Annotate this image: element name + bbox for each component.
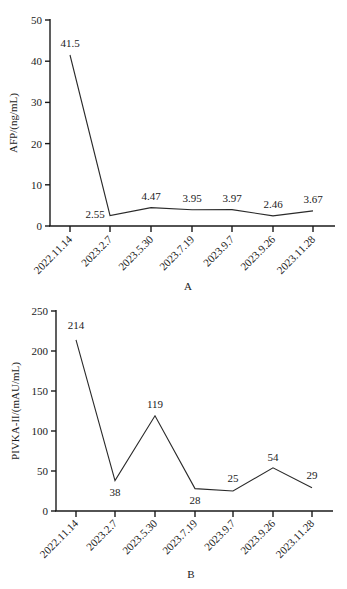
panel-label: B	[187, 568, 194, 580]
data-label: 3.95	[182, 192, 202, 204]
x-tick-label: 2023.9.7	[201, 233, 237, 269]
x-tick-label: 2022.11.14	[37, 517, 81, 561]
y-axis-title: AFP/(ng/mL)	[7, 93, 20, 153]
y-tick-label: 50	[37, 465, 49, 477]
chart-b-pivka: 0501001502002502022.11.142023.2.72023.5.…	[9, 305, 333, 580]
x-tick-label: 2023.2.7	[84, 517, 120, 553]
y-tick-label: 20	[31, 138, 43, 150]
x-tick-label: 2023.2.7	[79, 233, 115, 269]
data-label: 3.97	[222, 192, 242, 204]
data-label: 214	[68, 319, 85, 331]
x-tick-label: 2023.9.7	[202, 517, 238, 553]
y-tick-label: 30	[31, 96, 43, 108]
data-label: 29	[307, 469, 319, 481]
data-label: 54	[268, 451, 280, 463]
data-label: 4.47	[141, 190, 161, 202]
y-tick-label: 50	[31, 14, 43, 26]
y-tick-label: 250	[32, 305, 49, 317]
x-tick-label: 2022.11.14	[31, 233, 75, 277]
x-tick-label: 2023.9.26	[238, 517, 278, 557]
x-tick-label: 2023.11.28	[274, 233, 318, 277]
data-label: 2.55	[85, 208, 105, 220]
x-tick-label: 2023.7.19	[160, 517, 200, 557]
x-tick-label: 2023.5.30	[116, 233, 156, 273]
x-tick-label: 2023.11.28	[273, 517, 317, 561]
data-label: 2.46	[263, 198, 283, 210]
data-line	[76, 340, 312, 491]
data-label: 38	[110, 486, 122, 498]
y-tick-label: 40	[31, 55, 43, 67]
y-tick-label: 10	[31, 179, 43, 191]
panel-label: A	[184, 280, 192, 292]
y-tick-label: 200	[32, 345, 49, 357]
data-label: 25	[228, 472, 240, 484]
data-label: 119	[147, 398, 164, 410]
y-tick-label: 0	[37, 220, 43, 232]
figure: 010203040502022.11.142023.2.72023.5.3020…	[0, 0, 347, 589]
y-axis-title: PIVKA-II/(mAU/mL)	[9, 362, 22, 460]
y-tick-label: 0	[43, 505, 49, 517]
y-tick-label: 100	[32, 425, 49, 437]
x-tick-label: 2023.5.30	[120, 517, 160, 557]
data-label: 41.5	[60, 37, 80, 49]
y-tick-label: 150	[32, 385, 49, 397]
chart-a-afp: 010203040502022.11.142023.2.72023.5.3020…	[7, 14, 335, 292]
x-tick-label: 2023.7.19	[157, 233, 197, 273]
data-label: 28	[190, 494, 202, 506]
x-tick-label: 2023.9.26	[238, 233, 278, 273]
data-label: 3.67	[303, 193, 323, 205]
